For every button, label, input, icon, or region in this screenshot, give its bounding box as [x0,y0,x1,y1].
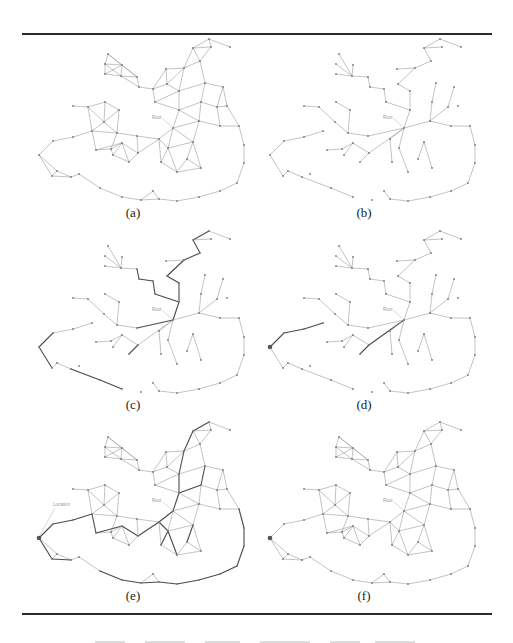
panel-d: Root [268,230,476,394]
panel-label-f: (f) [334,588,394,604]
location-marker [37,536,42,541]
caption-cutoff [85,636,425,643]
panel-label-a: (a) [103,205,163,221]
panel-a: Root [38,38,245,202]
panel-label-e: (e) [103,588,163,604]
network-graph-panels: RootRootRootRootRootLocationRoot [0,0,513,643]
root-label: Root [152,307,162,312]
figure: RootRootRootRootRootLocationRoot (a) (b)… [0,0,513,643]
panel-b: Root [269,38,476,202]
root-label: Root [383,498,393,503]
location-label: Location [53,502,71,507]
root-label: Root [152,498,162,503]
panel-label-d: (d) [334,397,394,413]
panel-c: Root [38,230,245,394]
bottom-rule [22,613,492,615]
panel-f: Root [268,421,476,585]
panel-label-b: (b) [334,205,394,221]
panel-e: RootLocation [37,421,245,585]
location-marker [268,536,273,541]
location-marker [268,345,273,350]
root-label: Root [383,115,393,120]
panel-label-c: (c) [103,397,163,413]
root-label: Root [383,307,393,312]
root-label: Root [152,115,162,120]
